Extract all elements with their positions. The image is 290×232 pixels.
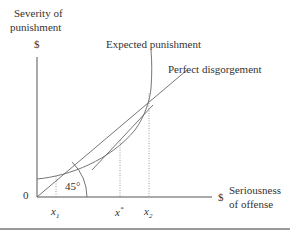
perfect-disgorgement-line xyxy=(37,70,187,197)
tangent-line xyxy=(92,105,153,170)
xstar-label: x* xyxy=(115,203,123,218)
origin-label: 0 xyxy=(23,189,29,201)
x-axis-unit: $ xyxy=(218,191,224,203)
x1-label: x1 xyxy=(51,205,59,222)
y-axis-unit: $ xyxy=(34,38,40,50)
expected-punishment-label: Expected punishment xyxy=(106,38,201,50)
x-axis-label-line1: Seriousness xyxy=(229,184,281,196)
y-axis-label-line2: punishment xyxy=(10,21,61,33)
y-axis-label-line1: Severity of xyxy=(14,7,63,19)
angle-label: 45° xyxy=(65,180,80,192)
x-axis-label-line2: of offense xyxy=(229,198,273,210)
x2-label: x2 xyxy=(144,205,152,222)
perfect-disgorgement-label: Perfect disgorgement xyxy=(168,63,262,75)
